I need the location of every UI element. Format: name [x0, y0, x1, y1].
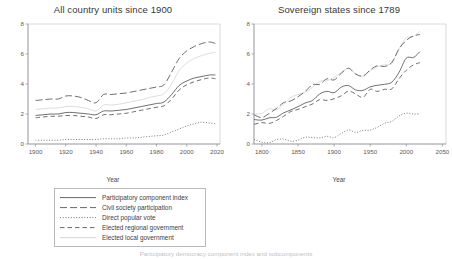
legend-label: Participatory component index [98, 193, 188, 202]
plot-svg-left: 024681900192019401960198020002020 [0, 18, 226, 166]
plot-area-left: 024681900192019401960198020002020 [0, 18, 226, 166]
figure-two-panel-line-chart: All country units since 1900 02468190019… [0, 0, 452, 259]
series-line [36, 122, 216, 140]
svg-text:1940: 1940 [89, 148, 103, 155]
legend-row: Direct popular vote [58, 212, 201, 222]
legend-line-sample [58, 203, 98, 212]
series-line [36, 78, 216, 119]
svg-text:8: 8 [247, 20, 251, 27]
series-line [36, 53, 216, 112]
plot-area-right: 02468180018501900195020002050 [226, 18, 452, 166]
legend-row: Elected regional government [58, 223, 201, 233]
panel-title: All country units since 1900 [0, 4, 226, 15]
svg-text:6: 6 [21, 50, 25, 57]
series-line [254, 31, 420, 114]
svg-text:4: 4 [247, 80, 251, 87]
legend-label: Direct popular vote [98, 213, 156, 222]
panel-title: Sovereign states since 1789 [226, 4, 452, 15]
legend-left: Participatory component indexCivil socie… [54, 188, 206, 247]
svg-text:2020: 2020 [210, 148, 224, 155]
legend-line-sample [58, 233, 98, 242]
legend-label: Elected regional government [98, 223, 183, 232]
svg-text:0: 0 [247, 140, 251, 147]
x-axis-label: Year [226, 176, 452, 183]
svg-text:2050: 2050 [436, 148, 450, 155]
series-line [254, 113, 420, 143]
svg-text:2: 2 [21, 110, 25, 117]
series-line [36, 75, 216, 116]
svg-text:1900: 1900 [29, 148, 43, 155]
series-line [254, 63, 420, 125]
svg-text:4: 4 [21, 80, 25, 87]
figure-caption: Participatory democracy component index … [0, 250, 452, 259]
plot-svg-right: 02468180018501900195020002050 [226, 18, 452, 166]
panel-all-country-units: All country units since 1900 02468190019… [0, 0, 226, 250]
series-line [254, 35, 420, 118]
legend-label: Civil society participation [98, 203, 172, 212]
svg-text:1850: 1850 [291, 148, 305, 155]
legend-row: Civil society participation [58, 202, 201, 212]
legend-line-sample [58, 193, 98, 202]
svg-text:1950: 1950 [363, 148, 377, 155]
svg-text:2000: 2000 [399, 148, 413, 155]
legend-row: Participatory component index [58, 192, 201, 202]
x-axis-label: Year [0, 176, 226, 183]
series-line [254, 52, 420, 121]
legend-line-sample [58, 213, 98, 222]
svg-text:1980: 1980 [150, 148, 164, 155]
legend-row: Elected local government [58, 233, 201, 243]
series-line [36, 42, 216, 103]
svg-text:2: 2 [247, 110, 251, 117]
legend-label: Elected local government [98, 233, 174, 242]
svg-text:8: 8 [21, 20, 25, 27]
legend-line-sample [58, 223, 98, 232]
svg-text:1800: 1800 [255, 148, 269, 155]
svg-text:6: 6 [247, 50, 251, 57]
svg-text:1900: 1900 [327, 148, 341, 155]
svg-text:1920: 1920 [59, 148, 73, 155]
panel-sovereign-states: Sovereign states since 1789 024681800185… [226, 0, 452, 250]
svg-text:1960: 1960 [119, 148, 133, 155]
svg-text:2000: 2000 [180, 148, 194, 155]
svg-text:0: 0 [21, 140, 25, 147]
